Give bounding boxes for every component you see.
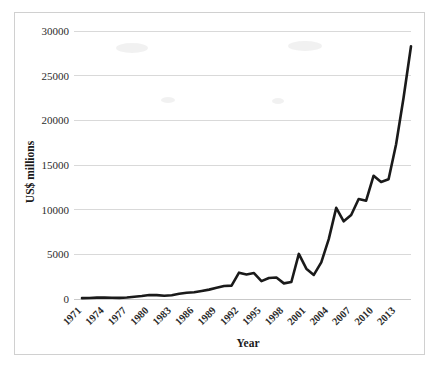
chart-figure: 050001000015000200002500030000 197119741… <box>0 0 444 372</box>
scan-artifacts <box>116 41 322 104</box>
x-tick-label: 2010 <box>352 305 375 328</box>
x-tick-label: 1980 <box>128 305 151 328</box>
y-axis-tick-labels: 050001000015000200002500030000 <box>42 25 70 305</box>
x-axis-tick-labels: 1971197419771980198319861989199219951998… <box>61 304 398 327</box>
x-tick-label: 1989 <box>195 305 218 328</box>
x-tick-label: 2013 <box>375 305 398 328</box>
x-tick-label: 1983 <box>151 305 174 328</box>
y-tick-label: 0 <box>64 293 70 305</box>
x-tick-label: 2007 <box>330 305 353 328</box>
y-tick-label: 10000 <box>42 204 70 216</box>
y-tick-label: 25000 <box>42 70 70 82</box>
data-series-line <box>82 46 411 298</box>
x-axis-title: Year <box>237 337 260 349</box>
x-tick-label: 1995 <box>240 305 263 328</box>
x-tick-label: 2001 <box>285 305 308 328</box>
x-tick-label: 1992 <box>218 305 241 328</box>
x-tick-label: 2004 <box>308 304 331 327</box>
x-tick-label: 1977 <box>106 305 129 328</box>
x-tick-label: 1974 <box>83 304 106 327</box>
y-tick-label: 20000 <box>42 114 70 126</box>
x-tick-label: 1998 <box>263 305 286 328</box>
gridlines <box>74 31 411 299</box>
x-tick-label: 1971 <box>61 305 84 328</box>
y-axis-title: US$ millions <box>24 140 36 203</box>
x-tick-label: 1986 <box>173 305 196 328</box>
y-tick-label: 30000 <box>42 25 70 37</box>
line-chart: 050001000015000200002500030000 197119741… <box>0 0 444 372</box>
y-tick-label: 5000 <box>47 248 70 260</box>
y-tick-label: 15000 <box>42 159 70 171</box>
